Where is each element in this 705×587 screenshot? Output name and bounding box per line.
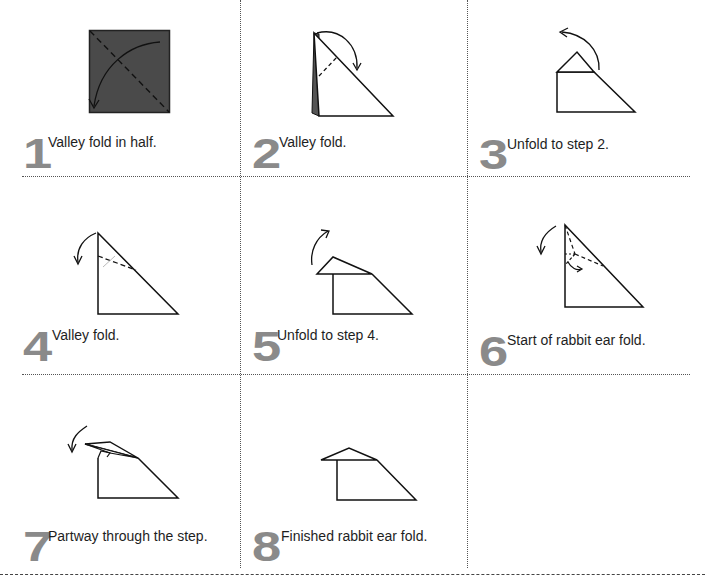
step-number: 1 — [23, 133, 51, 175]
step-number: 8 — [252, 526, 280, 568]
step-2: 2 Valley fold. — [240, 0, 467, 176]
step-caption: Start of rabbit ear fold. — [507, 333, 646, 347]
cut-line — [0, 574, 705, 575]
step-7: 7 Partway through the step. — [0, 374, 240, 574]
step-number: 3 — [479, 134, 507, 176]
step-1: 1 Valley fold in half. — [0, 0, 240, 176]
step-8: 8 Finished rabbit ear fold. — [240, 374, 467, 574]
empty-cell — [467, 374, 705, 574]
step-number: 4 — [23, 326, 51, 368]
step-5: 5 Unfold to step 4. — [240, 176, 467, 374]
step-caption: Valley fold in half. — [48, 135, 157, 149]
step-number: 5 — [252, 326, 280, 368]
step-caption: Valley fold. — [279, 135, 346, 149]
step-6: 6 Start of rabbit ear fold. — [467, 176, 705, 374]
step-number: 7 — [23, 526, 51, 568]
step-caption: Unfold to step 2. — [507, 137, 609, 151]
step-caption: Valley fold. — [52, 328, 119, 342]
step-number: 2 — [252, 133, 280, 175]
step-4: 4 Valley fold. — [0, 176, 240, 374]
step-3: 3 Unfold to step 2. — [467, 0, 705, 176]
step-caption: Partway through the step. — [48, 529, 208, 543]
step-caption: Finished rabbit ear fold. — [281, 529, 427, 543]
step-number: 6 — [479, 331, 507, 373]
step-caption: Unfold to step 4. — [277, 328, 379, 342]
instruction-sheet: 1 Valley fold in half. 2 Valley fold. 3 … — [0, 0, 705, 587]
